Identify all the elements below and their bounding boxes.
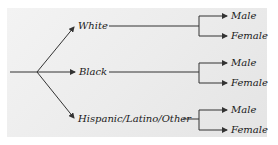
branch-arrow-white — [37, 27, 74, 72]
tree-diagram: White Black Hispanic/Latino/Other Male F… — [0, 0, 278, 145]
node-white: White — [78, 20, 108, 31]
node-white-female: Female — [230, 30, 268, 41]
node-hispanic-male: Male — [230, 104, 256, 115]
node-black: Black — [78, 66, 107, 77]
node-hispanic-latino-other: Hispanic/Latino/Other — [77, 113, 192, 124]
node-white-male: Male — [230, 10, 256, 21]
node-black-female: Female — [230, 77, 268, 88]
node-black-male: Male — [230, 57, 256, 68]
node-hispanic-female: Female — [230, 124, 268, 135]
branch-arrow-hispanic — [37, 72, 74, 118]
